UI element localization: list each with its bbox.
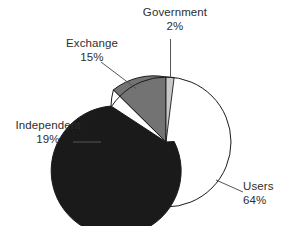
leader-line-users <box>216 180 243 192</box>
cut-off-caption <box>0 214 287 226</box>
pie-label-exchange: Exchange 15% <box>55 37 129 64</box>
pie-label-users-value: 64% <box>243 194 287 208</box>
pie-label-users-name: Users <box>243 180 287 194</box>
pie-label-independent-value: 19% <box>6 133 90 147</box>
pie-chart-figure: Government 2% Exchange 15% Independent 1… <box>0 0 287 226</box>
pie-label-independent: Independent 19% <box>6 119 90 146</box>
pie-label-users: Users 64% <box>243 180 287 207</box>
pie-label-government-value: 2% <box>133 20 217 34</box>
pie-label-exchange-value: 15% <box>55 51 129 65</box>
pie-label-independent-name: Independent <box>6 119 90 133</box>
pie-label-exchange-name: Exchange <box>55 37 129 51</box>
pie-slice-government[interactable] <box>166 77 174 142</box>
leader-line-exchange <box>101 62 136 89</box>
pie-label-government-name: Government <box>133 6 217 20</box>
pie-label-government: Government 2% <box>133 6 217 33</box>
